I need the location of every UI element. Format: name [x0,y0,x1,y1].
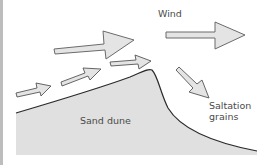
saltation-arrow [176,67,209,98]
saltation-label-line1: Saltation [209,100,251,111]
surface-wind-arrow-1 [16,83,51,97]
saltation-grains-label: Saltation grains [209,100,251,122]
wind-label: Wind [158,8,182,19]
wind-arrow-large-2 [166,22,245,49]
wind-arrow-large-1 [54,31,134,59]
saltation-label-line2: grains [209,111,251,122]
surface-wind-arrow-3 [110,55,151,69]
sand-dune-label: Sand dune [80,115,131,126]
surface-wind-arrow-2 [61,68,101,86]
dune-diagram [0,0,270,165]
